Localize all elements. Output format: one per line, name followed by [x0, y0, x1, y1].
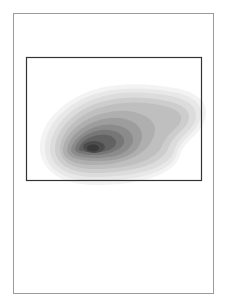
- contour-level-12-peak: [87, 145, 99, 152]
- density-plot: [0, 0, 227, 301]
- density-contours: [40, 84, 206, 185]
